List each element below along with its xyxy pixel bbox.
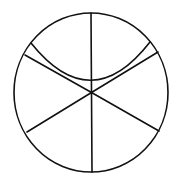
radial-line-bottom: [92, 93, 93, 173]
diagram-canvas: [0, 0, 177, 181]
circle-sector-diagram: [0, 0, 177, 181]
